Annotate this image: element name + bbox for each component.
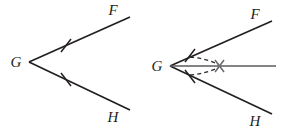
tick-mark-gf xyxy=(61,39,71,52)
ray-gh-bisected xyxy=(170,66,272,114)
vertex-label-g-left: G xyxy=(11,54,22,70)
ray-label-f-left: F xyxy=(107,2,118,18)
dashed-arc-upper xyxy=(190,57,219,65)
left-panel-group: G F H xyxy=(11,2,130,125)
right-panel-group: G F H xyxy=(152,6,276,129)
ray-gf-bisected xyxy=(170,21,272,66)
ray-gf xyxy=(29,17,130,62)
tick-mark-gh xyxy=(61,73,71,86)
dashed-arc-lower xyxy=(190,68,219,76)
ray-label-f-right: F xyxy=(249,6,260,22)
geometry-figure: G F H G F H xyxy=(0,0,284,129)
ray-label-h-right: H xyxy=(249,113,262,129)
ray-gh xyxy=(29,62,130,110)
ray-label-h-left: H xyxy=(107,109,120,125)
vertex-label-g-right: G xyxy=(152,58,163,74)
